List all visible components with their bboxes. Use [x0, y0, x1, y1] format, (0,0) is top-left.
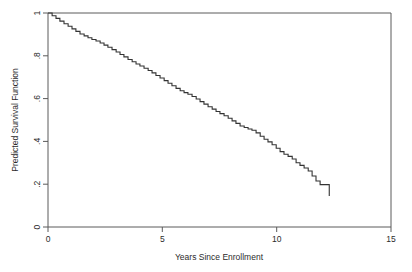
x-tick-label-3: 15 — [386, 234, 396, 244]
x-axis-title: Years Since Enrollment — [175, 252, 264, 262]
y-tick-label-0: 0 — [32, 224, 42, 229]
y-tick-label-5: 1 — [32, 10, 42, 15]
x-tick-label-2: 10 — [272, 234, 282, 244]
y-axis-title: Predicted Survival Function — [10, 68, 20, 172]
y-tick-label-2: .4 — [32, 138, 42, 145]
x-tick-label-1: 5 — [160, 234, 165, 244]
survival-curve-chart: 0 .2 .4 .6 .8 1 0 5 10 15 Years Since En… — [0, 0, 412, 272]
y-tick-label-3: .6 — [32, 95, 42, 102]
x-tick-label-0: 0 — [46, 234, 51, 244]
chart-background — [0, 0, 412, 272]
y-tick-label-1: .2 — [32, 180, 42, 187]
y-tick-label-4: .8 — [32, 52, 42, 59]
